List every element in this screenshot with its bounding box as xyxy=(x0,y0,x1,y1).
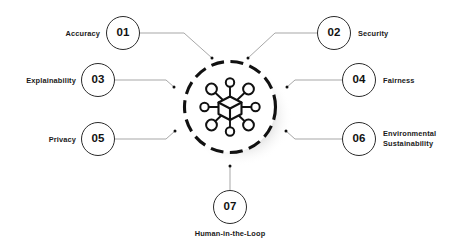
node-04[interactable]: 04 xyxy=(342,63,376,97)
node-02[interactable]: 02 xyxy=(317,16,351,50)
node-05-number: 05 xyxy=(91,133,104,145)
connector-dot-06 xyxy=(285,130,288,133)
satellite-node-sw xyxy=(206,120,217,131)
connector-03 xyxy=(115,80,174,87)
satellite-node-w xyxy=(200,103,208,111)
node-06[interactable]: 06 xyxy=(342,122,376,156)
network-cube-icon xyxy=(200,78,259,135)
node-03-number: 03 xyxy=(91,74,104,86)
connector-dot-04 xyxy=(286,86,289,89)
satellite-node-nw xyxy=(206,84,217,95)
node-04-number: 04 xyxy=(352,74,365,86)
hub-graphic xyxy=(178,55,282,159)
node-07[interactable]: 07 xyxy=(213,190,247,224)
cube-icon xyxy=(219,97,242,121)
connector-dot-03 xyxy=(173,86,176,89)
connector-05 xyxy=(115,131,175,139)
connector-dot-07 xyxy=(229,165,232,168)
satellite-node-s xyxy=(226,127,234,135)
node-03[interactable]: 03 xyxy=(81,63,115,97)
node-02-number: 02 xyxy=(327,27,340,39)
node-03-label: Explainability xyxy=(4,76,76,86)
satellite-node-n xyxy=(226,78,234,86)
node-06-number: 06 xyxy=(352,133,365,145)
node-05[interactable]: 05 xyxy=(81,122,115,156)
node-01-label: Accuracy xyxy=(16,29,100,39)
satellite-node-ne xyxy=(243,84,254,95)
node-07-number: 07 xyxy=(223,201,236,213)
connector-04 xyxy=(287,80,342,87)
connector-06 xyxy=(286,131,342,139)
connector-dot-05 xyxy=(174,130,177,133)
diagram-canvas: 01 Accuracy 02 Security 03 Explainabilit… xyxy=(0,0,457,246)
node-06-label: Environmental Sustainability xyxy=(383,129,455,149)
node-07-label: Human-in-the-Loop xyxy=(170,229,290,239)
node-01[interactable]: 01 xyxy=(106,16,140,50)
satellite-node-se xyxy=(243,120,254,131)
node-05-label: Privacy xyxy=(6,135,76,145)
satellite-node-e xyxy=(251,103,259,111)
node-01-number: 01 xyxy=(116,27,129,39)
node-02-label: Security xyxy=(358,29,448,39)
node-04-label: Fairness xyxy=(383,76,453,86)
